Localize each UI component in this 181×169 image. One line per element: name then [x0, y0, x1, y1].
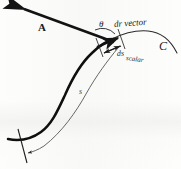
arc-length-s-indicator	[28, 48, 118, 153]
vector-calculus-diagram-svg	[0, 0, 181, 169]
vector-A-label: A	[38, 22, 46, 33]
arc-length-s-label: s	[79, 88, 82, 96]
curve-C-thick-segment	[8, 39, 114, 140]
theta-angle-arc	[95, 28, 115, 34]
tick-mark-curve-start	[18, 129, 27, 163]
theta-angle-label: θ	[99, 20, 103, 29]
curve-C-label: C	[159, 40, 167, 52]
figure-canvas: A C θ s dr vector ds scalar	[0, 0, 181, 169]
ds-scalar-label: ds	[117, 50, 125, 58]
